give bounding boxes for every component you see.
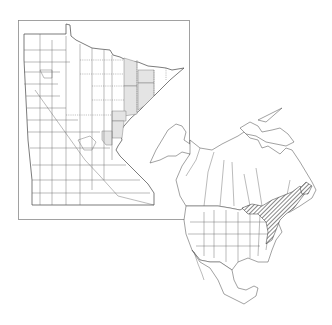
shaded-county-lake-north [138,70,154,83]
shaded-county-pine [112,121,124,138]
shaded-county-stlouis-north [124,58,137,86]
ellesmere-island [258,108,282,122]
shaded-county-carlton [112,111,126,121]
minnesota-map-panel [19,21,190,220]
distribution-map-figure [0,0,332,325]
